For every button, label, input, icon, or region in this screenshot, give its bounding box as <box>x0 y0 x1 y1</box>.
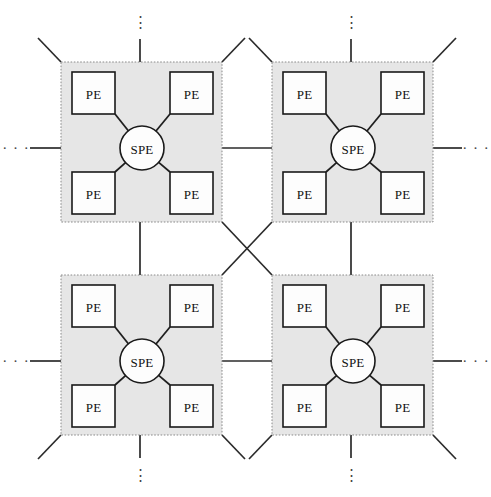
cluster-bottom-left-pe-top-left-label: PE <box>86 300 102 315</box>
cluster-bottom-right: PEPEPEPESPE <box>272 275 433 435</box>
ellipsis-bottom-left: ⋮ <box>133 467 148 483</box>
cluster-top-left-pe-top-left-label: PE <box>86 87 102 102</box>
ellipsis-left-bottom: · · · <box>2 353 30 369</box>
link-top-left-cluster-ne <box>222 38 245 62</box>
cluster-bottom-left-spe-label: SPE <box>130 355 153 370</box>
ellipsis-right-bottom: · · · <box>462 353 490 369</box>
cluster-top-right-pe-bottom-right-label: PE <box>395 187 411 202</box>
cluster-top-right: PEPEPEPESPE <box>272 62 433 222</box>
cluster-top-right-pe-top-left-label: PE <box>297 87 313 102</box>
cluster-bottom-right-pe-top-right-label: PE <box>395 300 411 315</box>
ellipsis-bottom-right: ⋮ <box>344 467 359 483</box>
link-top-right-cluster-nw <box>249 38 272 62</box>
cluster-top-right-pe-top-right-label: PE <box>395 87 411 102</box>
cluster-bottom-left-pe-top-right-label: PE <box>184 300 200 315</box>
cluster-top-left-pe-bottom-right-label: PE <box>184 187 200 202</box>
link-bottom-left-cluster-sw <box>38 435 61 459</box>
cluster-bottom-left: PEPEPEPESPE <box>61 275 222 435</box>
link-bottom-left-cluster-se <box>222 435 245 459</box>
link-top-left-cluster-nw <box>38 38 61 62</box>
cluster-bottom-right-pe-bottom-left-label: PE <box>297 400 313 415</box>
cluster-bottom-left-pe-bottom-right-label: PE <box>184 400 200 415</box>
cluster-bottom-left-pe-bottom-left-label: PE <box>86 400 102 415</box>
cluster-top-left-pe-bottom-left-label: PE <box>86 187 102 202</box>
cluster-bottom-right-spe-label: SPE <box>341 355 364 370</box>
diagram-canvas: PEPEPEPESPEPEPEPEPESPEPEPEPEPESPEPEPEPEP… <box>0 0 491 497</box>
ellipsis-right-top: · · · <box>462 140 490 156</box>
link-top-right-cluster-ne <box>433 38 456 62</box>
ellipsis-top-right: ⋮ <box>344 14 359 30</box>
cluster-top-left: PEPEPEPESPE <box>61 62 222 222</box>
cluster-top-right-pe-bottom-left-label: PE <box>297 187 313 202</box>
cluster-mesh-diagram: PEPEPEPESPEPEPEPEPESPEPEPEPEPESPEPEPEPEP… <box>0 0 491 497</box>
cluster-bottom-right-pe-bottom-right-label: PE <box>395 400 411 415</box>
ellipsis-left-top: · · · <box>2 140 30 156</box>
cluster-top-left-pe-top-right-label: PE <box>184 87 200 102</box>
cluster-bottom-right-pe-top-left-label: PE <box>297 300 313 315</box>
link-bottom-right-cluster-sw <box>249 435 272 459</box>
cluster-top-right-spe-label: SPE <box>341 142 364 157</box>
cluster-top-left-spe-label: SPE <box>130 142 153 157</box>
ellipsis-top-left: ⋮ <box>133 14 148 30</box>
link-bottom-right-cluster-se <box>433 435 456 459</box>
